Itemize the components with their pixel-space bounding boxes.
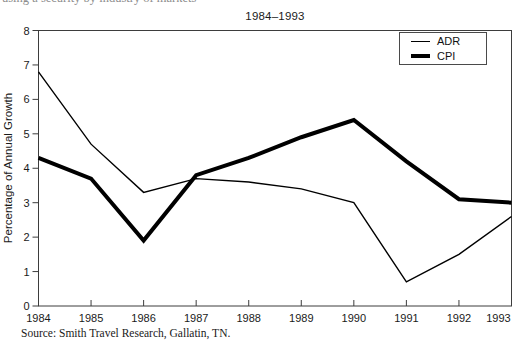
y-tick-label: 5 (23, 128, 29, 140)
cpi-line-sample (411, 54, 430, 58)
legend-label-adr: ADR (437, 35, 460, 47)
y-tick-label: 0 (23, 300, 29, 312)
y-tick-label: 7 (23, 59, 29, 71)
legend-label-cpi: CPI (437, 50, 455, 62)
figure-page: using a security by industry of markets … (0, 0, 521, 346)
x-tick-label: 1991 (394, 312, 418, 324)
source-note: Source: Smith Travel Research, Gallatin,… (21, 327, 230, 339)
x-tick-label: 1993 (486, 312, 510, 324)
x-tick-label: 1989 (289, 312, 313, 324)
x-tick-label: 1984 (26, 312, 50, 324)
x-tick-label: 1992 (447, 312, 471, 324)
x-tick-label: 1985 (79, 312, 103, 324)
series-line-adr (39, 72, 512, 282)
legend: ADR CPI (399, 32, 487, 65)
y-tick-label: 8 (23, 25, 29, 37)
x-tick-label: 1990 (342, 312, 366, 324)
x-tick-label: 1987 (184, 312, 208, 324)
legend-item-cpi: CPI (411, 50, 486, 62)
x-tick-label: 1988 (236, 312, 260, 324)
y-tick-label: 6 (23, 93, 29, 105)
y-tick-label: 1 (23, 266, 29, 278)
y-tick-label: 3 (23, 197, 29, 209)
y-tick-label: 2 (23, 231, 29, 243)
legend-item-adr: ADR (411, 35, 486, 47)
adr-line-sample (411, 41, 430, 42)
y-tick-label: 4 (23, 162, 29, 174)
x-tick-label: 1986 (131, 312, 155, 324)
series-line-cpi (39, 120, 512, 241)
